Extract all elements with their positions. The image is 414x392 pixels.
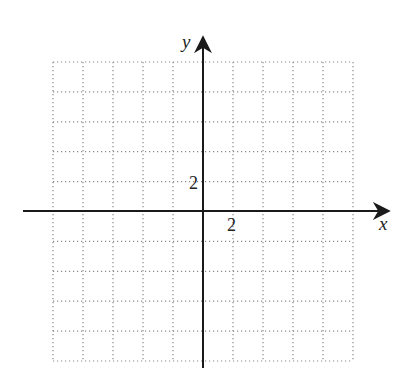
x-tick-label: 2 <box>227 215 236 235</box>
y-axis-label: y <box>180 31 191 52</box>
coordinate-plane: y x 2 2 <box>0 0 414 392</box>
x-axis-label: x <box>378 213 388 234</box>
y-tick-label: 2 <box>189 173 198 193</box>
